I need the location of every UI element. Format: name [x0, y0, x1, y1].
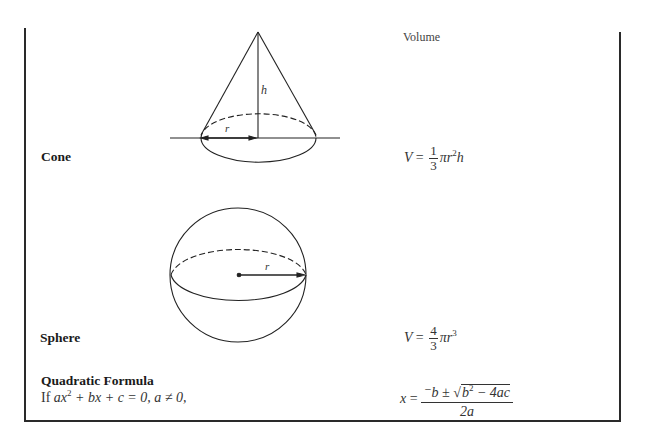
fraction-denominator: 2a [421, 403, 513, 420]
fraction: 1 3 [429, 144, 438, 173]
quadratic-title: Quadratic Formula [41, 373, 154, 389]
formula-pi-r: πr [440, 330, 452, 345]
formula-equals: = [410, 391, 418, 406]
fraction: 4 3 [429, 324, 438, 353]
fraction-denominator: 3 [429, 159, 438, 173]
numerator-prefix: ⁻b ± √ [424, 385, 461, 400]
condition-term: ax [54, 390, 67, 405]
fraction-denominator: 3 [429, 339, 438, 353]
formula-equals: = [416, 150, 424, 165]
fraction-numerator: 1 [429, 144, 438, 159]
sphere-volume-formula: V = 4 3 πr3 [404, 324, 457, 353]
radicand-rest: − 4ac [473, 385, 510, 400]
formula-lhs: x [400, 391, 406, 406]
quadratic-formula: x = ⁻b ± √b2 − 4ac 2a [400, 380, 513, 420]
formula-lhs: V [404, 150, 412, 165]
formula-exponent: 3 [452, 328, 457, 338]
cone-label: Cone [41, 149, 71, 165]
formula-equals: = [416, 330, 424, 345]
fraction-numerator: ⁻b ± √b2 − 4ac [421, 380, 513, 403]
cone-volume-formula: V = 1 3 πr2h [404, 144, 464, 173]
condition-prefix: If [41, 390, 54, 405]
sphere-diagram [0, 0, 645, 437]
sphere-radius-label: r [265, 260, 269, 272]
condition-rest: + bx + c = 0, a ≠ 0, [72, 390, 187, 405]
fraction-numerator: 4 [429, 324, 438, 339]
quadratic-fraction: ⁻b ± √b2 − 4ac 2a [421, 380, 513, 420]
formula-height: h [457, 150, 464, 165]
formula-lhs: V [404, 330, 412, 345]
square-root: b2 − 4ac [461, 384, 510, 400]
formula-pi-r: πr [440, 150, 452, 165]
radicand-b: b [462, 385, 469, 400]
sphere-label: Sphere [40, 330, 80, 346]
quadratic-condition: If ax2 + bx + c = 0, a ≠ 0, [41, 388, 187, 406]
